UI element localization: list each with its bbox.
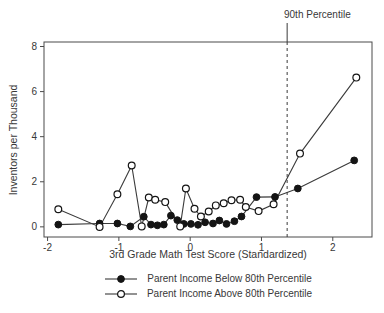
data-point-above	[198, 213, 205, 220]
series-markers	[55, 74, 360, 230]
data-point-below	[294, 185, 301, 192]
series-line-below	[58, 160, 354, 226]
data-point-below	[231, 218, 238, 225]
data-point-below	[154, 222, 161, 229]
data-point-above	[138, 223, 145, 230]
y-tick-label: 0	[31, 221, 37, 232]
data-point-below	[272, 194, 279, 201]
open-circle-swatch	[104, 288, 138, 300]
data-point-above	[177, 223, 184, 230]
data-point-above	[297, 150, 304, 157]
x-axis-label: 3rd Grade Math Test Score (Standardized)	[44, 248, 372, 260]
data-point-below	[238, 213, 245, 220]
data-point-below	[351, 157, 358, 164]
y-tick-label: 8	[31, 41, 37, 52]
data-point-below	[168, 212, 175, 219]
data-point-below	[253, 194, 260, 201]
figure-canvas: 02468-2-1012 90th Percentile Inventors p…	[0, 0, 384, 313]
data-point-above	[128, 162, 135, 169]
data-point-above	[255, 208, 262, 215]
data-point-above	[270, 201, 277, 208]
data-point-above	[212, 202, 219, 209]
data-point-below	[160, 221, 167, 228]
data-point-above	[228, 197, 235, 204]
data-point-below	[114, 220, 121, 227]
legend-item-below: Parent Income Below 80th Percentile	[104, 272, 312, 286]
data-point-below	[127, 223, 134, 230]
data-point-above	[220, 200, 227, 207]
y-tick-label: 4	[31, 131, 37, 142]
data-point-above	[96, 224, 103, 231]
data-point-below	[210, 220, 217, 227]
data-point-above	[114, 191, 121, 198]
data-point-above	[162, 199, 169, 206]
data-point-above	[152, 196, 159, 203]
data-point-below	[55, 221, 62, 228]
legend-label-above: Parent Income Above 80th Percentile	[147, 287, 312, 301]
data-point-below	[195, 221, 202, 228]
data-point-below	[188, 221, 195, 228]
y-tick-label: 2	[31, 176, 37, 187]
data-point-above	[145, 194, 152, 201]
legend: Parent Income Below 80th Percentile Pare…	[44, 272, 372, 301]
data-point-below	[140, 213, 147, 220]
legend-item-above: Parent Income Above 80th Percentile	[104, 287, 312, 301]
data-point-below	[148, 221, 155, 228]
data-point-below	[216, 217, 223, 224]
chart-plot: 02468-2-1012	[0, 0, 384, 313]
legend-label-below: Parent Income Below 80th Percentile	[147, 272, 312, 286]
data-point-above	[353, 74, 360, 81]
series-line-above	[58, 78, 356, 227]
data-point-above	[55, 206, 62, 213]
series-lines	[58, 78, 356, 227]
data-point-above	[191, 205, 198, 212]
data-point-above	[205, 208, 212, 215]
data-point-above	[183, 185, 190, 192]
filled-circle-swatch	[104, 273, 138, 285]
data-point-above	[237, 196, 244, 203]
y-axis-label: Inventors per Thousand	[7, 85, 19, 196]
data-point-above	[242, 204, 249, 211]
annotation-label: 90th Percentile	[284, 9, 351, 20]
y-tick-label: 6	[31, 86, 37, 97]
data-point-below	[223, 221, 230, 228]
